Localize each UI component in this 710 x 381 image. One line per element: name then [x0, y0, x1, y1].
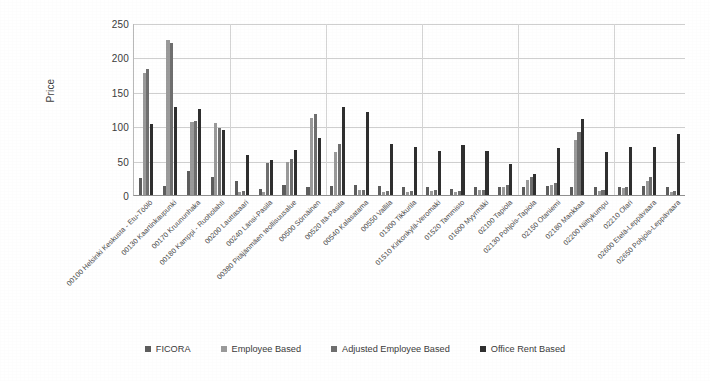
bar [366, 112, 369, 195]
bar [629, 147, 632, 195]
bar [474, 187, 477, 195]
bar [478, 190, 481, 195]
bar-group [254, 24, 278, 195]
bar [187, 171, 190, 195]
bar [577, 132, 580, 195]
bar-group [206, 24, 230, 195]
bar [506, 185, 509, 195]
bar [338, 144, 341, 195]
legend-item[interactable]: Employee Based [221, 344, 301, 354]
y-axis-tick: 200 [112, 53, 129, 64]
chart-legend: FICORAEmployee BasedAdjusted Employee Ba… [0, 344, 710, 354]
bar [218, 128, 221, 195]
legend-label: Employee Based [232, 344, 301, 354]
bar [410, 191, 413, 195]
y-axis-tick: 50 [117, 156, 129, 167]
bar-group [517, 24, 541, 195]
legend-item[interactable]: Office Rent Based [480, 344, 565, 354]
bar [262, 192, 265, 195]
bar [574, 140, 577, 195]
bar [670, 192, 673, 195]
bar-group [661, 24, 685, 195]
x-axis-tick: 00100 Helsinki Keskusta - Etu-Töölö [65, 198, 155, 288]
bar [406, 192, 409, 195]
bar [242, 191, 245, 195]
bar [382, 192, 385, 195]
bar-group [182, 24, 206, 195]
bar-group [445, 24, 469, 195]
legend-swatch-icon [331, 346, 337, 352]
bar [509, 164, 512, 195]
bar [522, 187, 525, 195]
bar [214, 123, 217, 195]
y-axis-tick: 150 [112, 87, 129, 98]
bar-group [613, 24, 637, 195]
legend-label: Adjusted Employee Based [342, 344, 450, 354]
bar [174, 107, 177, 195]
bar [594, 187, 597, 195]
bar [314, 114, 317, 195]
bar [454, 192, 457, 195]
y-axis-title: Price [45, 61, 56, 121]
plot-area [133, 24, 685, 196]
bar [646, 181, 649, 195]
bar [458, 191, 461, 195]
bar [642, 186, 645, 195]
bar [414, 147, 417, 195]
bar-group [350, 24, 374, 195]
bar [270, 160, 273, 195]
bar [282, 185, 285, 195]
bar [598, 191, 601, 195]
bar [194, 121, 197, 195]
y-axis-tick: 100 [112, 122, 129, 133]
bar-group [302, 24, 326, 195]
bar-group [541, 24, 565, 195]
bar [235, 181, 238, 195]
bar [533, 174, 536, 195]
legend-swatch-icon [480, 346, 486, 352]
bar [461, 145, 464, 195]
bar [166, 40, 169, 195]
bar [342, 107, 345, 195]
bar [238, 192, 241, 195]
bar [434, 190, 437, 195]
bar [601, 190, 604, 195]
bar [677, 134, 680, 195]
bar [143, 73, 146, 195]
bar-group [230, 24, 254, 195]
y-axis-tick: 0 [123, 191, 129, 202]
legend-item[interactable]: Adjusted Employee Based [331, 344, 450, 354]
bar [334, 152, 337, 195]
bar-group [637, 24, 661, 195]
bar [581, 119, 584, 195]
bar-group [421, 24, 445, 195]
bar [653, 147, 656, 195]
bar [266, 163, 269, 195]
chart-figure: Price 250200150100500 00100 Helsinki Kes… [0, 0, 710, 381]
bar [246, 155, 249, 195]
bar [502, 187, 505, 195]
legend-swatch-icon [145, 346, 151, 352]
bar [546, 186, 549, 195]
bar [530, 177, 533, 195]
bar-group [326, 24, 350, 195]
bar-group [397, 24, 421, 195]
legend-swatch-icon [221, 346, 227, 352]
bar [318, 138, 321, 195]
bar [550, 185, 553, 195]
bar-group [493, 24, 517, 195]
bar-group [278, 24, 302, 195]
bar [498, 187, 501, 195]
bar [402, 187, 405, 195]
bar [618, 187, 621, 195]
bar [426, 187, 429, 195]
bar [306, 187, 309, 195]
legend-item[interactable]: FICORA [145, 344, 191, 354]
bar [222, 130, 225, 195]
bar [673, 191, 676, 195]
y-axis-tick: 250 [112, 19, 129, 30]
bar [605, 152, 608, 195]
bar [554, 183, 557, 195]
bar [430, 191, 433, 195]
bar [390, 144, 393, 195]
